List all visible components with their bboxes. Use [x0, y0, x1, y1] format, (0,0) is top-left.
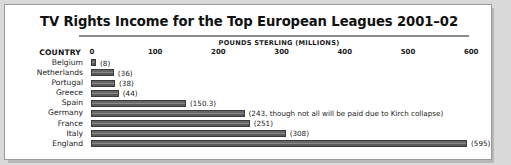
- bar-row: Belgium(8): [5, 58, 492, 68]
- bar-value-label-germany: (243, though not all will be paid due to…: [249, 109, 444, 118]
- x-tick-label-400: 400: [337, 48, 352, 56]
- category-label-england: England: [52, 139, 83, 148]
- bar-row: England(595): [5, 139, 492, 149]
- title-divider-rule: [79, 35, 469, 37]
- bar-value-label-portugal: (38): [119, 79, 134, 88]
- figure-outer-frame: TV Rights Income for the Top European Le…: [0, 0, 511, 165]
- bar-value-label-italy: (308): [290, 129, 309, 138]
- bar-value-label-belgium: (8): [100, 59, 110, 68]
- bar-row: Netherlands(36): [5, 68, 492, 78]
- category-label-belgium: Belgium: [52, 58, 83, 67]
- category-label-germany: Germany: [48, 108, 83, 117]
- x-tick-label-200: 200: [211, 48, 226, 56]
- x-tick-label-500: 500: [401, 48, 416, 56]
- bar-row: Germany(243, though not all will be paid…: [5, 108, 492, 118]
- bar-germany: [91, 110, 245, 117]
- bar-value-label-france: (251): [254, 119, 273, 128]
- x-axis-title: POUNDS STERLING (MILLIONS): [89, 39, 469, 47]
- plot-area: Belgium(8)Netherlands(36)Portugal(38)Gre…: [5, 58, 492, 154]
- bar-netherlands: [91, 69, 114, 76]
- chart-title: TV Rights Income for the Top European Le…: [5, 14, 492, 29]
- bar-spain: [91, 100, 186, 107]
- bar-value-label-greece: (44): [123, 89, 138, 98]
- x-tick-label-0: 0: [90, 48, 95, 56]
- bar-portugal: [91, 80, 115, 87]
- bar-row: Spain(150.3): [5, 98, 492, 108]
- x-axis-tick-labels: 0100200300400500600: [5, 48, 492, 58]
- chart-panel: TV Rights Income for the Top European Le…: [4, 4, 492, 160]
- bar-value-label-spain: (150.3): [190, 99, 216, 108]
- bar-row: Italy(308): [5, 129, 492, 139]
- bar-row: France(251): [5, 119, 492, 129]
- x-tick-label-600: 600: [464, 48, 479, 56]
- category-label-italy: Italy: [67, 129, 83, 138]
- x-tick-label-100: 100: [148, 48, 163, 56]
- category-label-france: France: [58, 119, 83, 128]
- category-label-netherlands: Netherlands: [37, 68, 83, 77]
- bar-value-label-england: (595): [471, 139, 490, 148]
- bar-france: [91, 120, 250, 127]
- category-label-greece: Greece: [56, 88, 83, 97]
- bar-greece: [91, 90, 119, 97]
- bar-row: Portugal(38): [5, 78, 492, 88]
- x-tick-label-300: 300: [274, 48, 289, 56]
- bar-england: [91, 140, 467, 147]
- bar-belgium: [91, 59, 96, 66]
- bar-italy: [91, 130, 286, 137]
- category-label-spain: Spain: [62, 98, 83, 107]
- bar-row: Greece(44): [5, 88, 492, 98]
- category-label-portugal: Portugal: [52, 78, 83, 87]
- bar-value-label-netherlands: (36): [118, 69, 133, 78]
